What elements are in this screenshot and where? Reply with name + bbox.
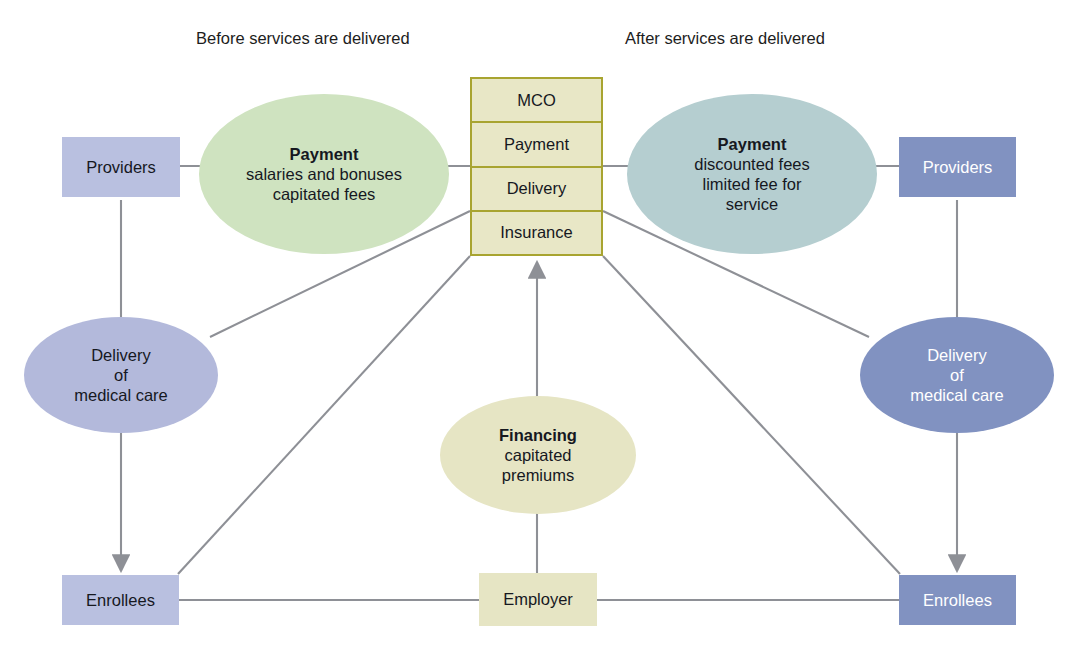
right-payment-title: Payment xyxy=(718,134,787,154)
left-payment-line1: salaries and bonuses xyxy=(246,164,402,184)
right-providers-box[interactable]: Providers xyxy=(899,137,1016,197)
right-providers-label: Providers xyxy=(923,157,993,177)
financing-line1: capitated xyxy=(505,445,572,465)
mco-cell-payment-label: Payment xyxy=(504,135,569,154)
left-delivery-ellipse: Delivery of medical care xyxy=(24,317,218,433)
financing-line2: premiums xyxy=(502,465,574,485)
mco-cell-delivery-label: Delivery xyxy=(507,179,567,198)
mco-cell-insurance-label: Insurance xyxy=(500,223,572,242)
left-payment-line2: capitated fees xyxy=(273,184,376,204)
left-enrollees-box[interactable]: Enrollees xyxy=(62,575,179,625)
mco-cell-mco-label: MCO xyxy=(517,91,556,110)
right-delivery-ellipse: Delivery of medical care xyxy=(860,317,1054,433)
right-delivery-line3: medical care xyxy=(910,385,1004,405)
left-delivery-line3: medical care xyxy=(74,385,168,405)
right-payment-line1: discounted fees xyxy=(694,154,810,174)
left-delivery-line1: Delivery xyxy=(91,345,151,365)
right-enrollees-box[interactable]: Enrollees xyxy=(899,575,1016,625)
mco-cell-mco[interactable]: MCO xyxy=(472,79,601,123)
financing-title: Financing xyxy=(499,425,577,445)
right-enrollees-label: Enrollees xyxy=(923,590,992,610)
right-payment-line2: limited fee for xyxy=(702,174,801,194)
left-enrollees-label: Enrollees xyxy=(86,590,155,610)
left-delivery-line2: of xyxy=(114,365,128,385)
left-payment-ellipse: Payment salaries and bonuses capitated f… xyxy=(199,94,449,254)
left-payment-title: Payment xyxy=(290,144,359,164)
right-payment-ellipse: Payment discounted fees limited fee for … xyxy=(627,94,877,254)
mco-cell-insurance[interactable]: Insurance xyxy=(472,212,601,254)
mco-cell-payment[interactable]: Payment xyxy=(472,123,601,167)
employer-label: Employer xyxy=(503,589,573,609)
employer-box[interactable]: Employer xyxy=(479,573,597,626)
mco-cell-delivery[interactable]: Delivery xyxy=(472,168,601,212)
left-providers-label: Providers xyxy=(86,157,156,177)
right-delivery-line2: of xyxy=(950,365,964,385)
mco-stack[interactable]: MCO Payment Delivery Insurance xyxy=(470,77,603,256)
right-delivery-line1: Delivery xyxy=(927,345,987,365)
left-providers-box[interactable]: Providers xyxy=(62,137,180,197)
column-header-before: Before services are delivered xyxy=(196,29,410,48)
diagram-canvas: Before services are delivered After serv… xyxy=(0,0,1078,665)
financing-ellipse: Financing capitated premiums xyxy=(440,396,636,514)
column-header-after: After services are delivered xyxy=(625,29,825,48)
edge-mco-insurance-to-left-enrollees xyxy=(178,256,470,574)
right-payment-line3: service xyxy=(726,194,778,214)
edge-mco-insurance-to-right-enrollees xyxy=(603,256,900,574)
